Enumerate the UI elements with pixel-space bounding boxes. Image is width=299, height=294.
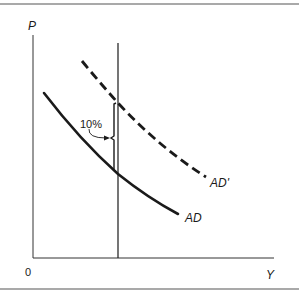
origin-label: 0	[25, 266, 31, 278]
ad-curve	[44, 93, 178, 214]
gap-brace	[111, 103, 116, 172]
ad-label: AD	[184, 211, 202, 225]
aggregate-demand-diagram: P Y 0 AD AD' 10%	[0, 0, 299, 294]
ad-prime-label: AD'	[209, 176, 230, 190]
y-axis-label: P	[28, 19, 36, 33]
x-axis-label: Y	[266, 268, 275, 282]
percent-annotation: 10%	[80, 118, 102, 130]
arrowhead-icon	[104, 136, 110, 141]
annotation-arrow	[89, 129, 106, 138]
